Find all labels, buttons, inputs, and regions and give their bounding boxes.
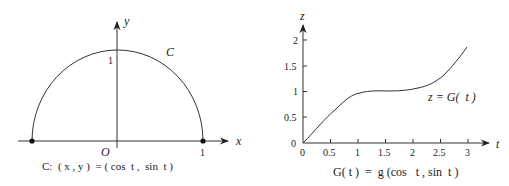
t-tick-1: 1 (355, 147, 360, 158)
t-tick-0: 0 (300, 147, 305, 158)
left-figure: y x C 1 O 1 C: ( x , y ) = ( cos t , sin… (18, 14, 242, 173)
curve-label: z = G( t ) (427, 90, 476, 104)
y-axis-label: y (123, 14, 130, 28)
z-axis-label: z (299, 9, 305, 23)
origin-label: O (101, 145, 110, 159)
figure-canvas: y x C 1 O 1 C: ( x , y ) = ( cos t , sin… (0, 0, 509, 186)
z-tick-0.5: 0.5 (284, 112, 297, 123)
z-tick-1.5: 1.5 (284, 61, 297, 72)
z-tick-2: 2 (293, 35, 298, 46)
t-tick-2: 2 (410, 147, 415, 158)
z-tick-0: 0 (291, 138, 296, 149)
left-endpoint-dot (29, 138, 34, 143)
left-caption: C: ( x , y ) = ( cos t , sin t ) (42, 160, 173, 173)
z-tick-1: 1 (293, 86, 298, 97)
t-axis-ticks (331, 139, 469, 143)
t-tick-1.5: 1.5 (378, 147, 391, 158)
t-tick-2.5: 2.5 (433, 147, 446, 158)
t-tick-3: 3 (465, 147, 470, 158)
x-tick-label-1: 1 (200, 147, 205, 158)
right-endpoint-dot (200, 138, 205, 143)
t-axis-label: t (496, 137, 500, 151)
x-axis-label: x (235, 134, 242, 148)
y-tick-label-1: 1 (108, 55, 113, 66)
curve-c-label: C (166, 45, 175, 59)
t-tick-0.5: 0.5 (323, 147, 336, 158)
right-figure: 0 0.5 1 1.5 2 2.5 3 0 0.5 1 1.5 2 z t z … (284, 9, 500, 179)
z-axis-ticks (303, 40, 307, 117)
right-caption: G( t ) = g (cos t , sin t ) (333, 165, 458, 179)
